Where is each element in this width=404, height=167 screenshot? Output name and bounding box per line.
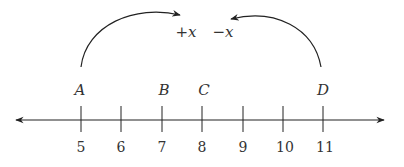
- number-line-diagram: 5 6 7 8 9 10 11 A B C D +x −x: [0, 0, 404, 167]
- tick-label: 10: [276, 139, 294, 155]
- tick-label: 11: [316, 139, 334, 155]
- point-labels: A B C D: [73, 81, 329, 99]
- tick-label: 8: [198, 139, 207, 155]
- point-label-d: D: [316, 81, 329, 99]
- tick-label: 6: [117, 139, 126, 155]
- point-label-b: B: [157, 81, 169, 99]
- tick-label: 7: [158, 139, 167, 155]
- tick-label: 5: [77, 139, 86, 155]
- tick-labels: 5 6 7 8 9 10 11: [77, 139, 334, 155]
- tick-label: 9: [239, 139, 248, 155]
- plus-x-arrow: [81, 12, 180, 67]
- ticks: [81, 106, 323, 132]
- point-label-c: C: [198, 81, 210, 99]
- minus-x-label: −x: [212, 23, 234, 41]
- point-label-a: A: [73, 81, 86, 99]
- plus-x-label: +x: [175, 23, 197, 41]
- minus-x-arrow: [231, 16, 321, 67]
